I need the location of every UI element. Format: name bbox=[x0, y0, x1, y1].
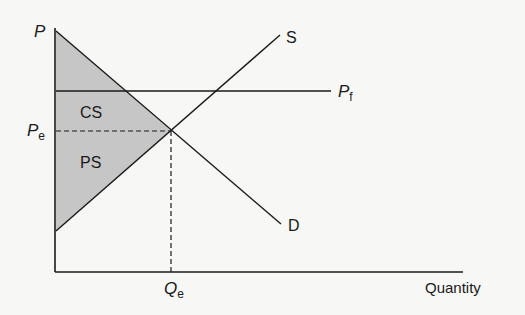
demand-label: D bbox=[288, 217, 300, 234]
quantity-axis-label: Quantity bbox=[425, 279, 481, 296]
eq-price-label: Pe bbox=[27, 121, 45, 143]
supply-demand-diagram: P Pe CS PS S D Pf Qe Quantity bbox=[0, 0, 525, 315]
supply-label: S bbox=[286, 29, 297, 46]
consumer-surplus-label: CS bbox=[80, 104, 102, 121]
producer-surplus-label: PS bbox=[80, 154, 101, 171]
price-axis-label: P bbox=[34, 22, 46, 41]
world-price-label: Pf bbox=[338, 82, 353, 104]
eq-quantity-label: Qe bbox=[164, 279, 184, 301]
